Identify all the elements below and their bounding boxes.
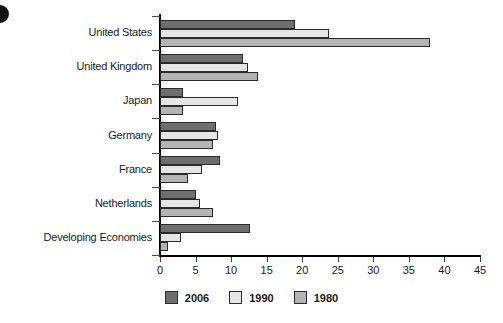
- y-axis-tick: [152, 16, 160, 17]
- x-axis-tick: [373, 257, 374, 262]
- bar[interactable]: [160, 38, 430, 47]
- bar[interactable]: [160, 106, 183, 115]
- bar-row: [160, 72, 480, 81]
- x-axis-tick-label: 25: [323, 264, 353, 276]
- bar-row: [160, 29, 480, 38]
- bar-group: [160, 153, 480, 187]
- bar[interactable]: [160, 29, 329, 38]
- y-axis-label: Netherlands: [6, 197, 152, 209]
- x-axis-tick: [338, 257, 339, 262]
- bar-row: [160, 156, 480, 165]
- bar[interactable]: [160, 242, 168, 251]
- bar[interactable]: [160, 208, 213, 217]
- bar-row: [160, 140, 480, 149]
- bar-group: [160, 50, 480, 84]
- y-axis-label: Developing Economies: [6, 231, 152, 243]
- legend-swatch-icon: [165, 291, 178, 304]
- bar[interactable]: [160, 54, 243, 63]
- y-axis-tick: [152, 221, 160, 222]
- x-axis-tick-label: 0: [145, 264, 175, 276]
- bar[interactable]: [160, 165, 202, 174]
- legend-label: 2006: [185, 292, 209, 304]
- bar-row: [160, 233, 480, 242]
- x-axis-tick: [231, 257, 232, 262]
- bar[interactable]: [160, 122, 216, 131]
- x-axis-tick: [444, 257, 445, 262]
- horizontal-bar-chart: United StatesUnited KingdomJapanGermanyF…: [0, 0, 503, 323]
- x-axis-tick-label: 10: [216, 264, 246, 276]
- legend-label: 1990: [249, 292, 273, 304]
- bar-row: [160, 199, 480, 208]
- legend-item[interactable]: 1980: [294, 291, 338, 304]
- y-axis-tick: [152, 153, 160, 154]
- y-axis-tick: [152, 118, 160, 119]
- bar-row: [160, 165, 480, 174]
- bar-group: [160, 187, 480, 221]
- bar[interactable]: [160, 131, 218, 140]
- x-axis-tick: [480, 257, 481, 262]
- bar-row: [160, 224, 480, 233]
- y-axis-tick: [152, 255, 160, 256]
- bar[interactable]: [160, 190, 196, 199]
- legend-label: 1980: [314, 292, 338, 304]
- bar-row: [160, 54, 480, 63]
- y-axis-category-labels: United StatesUnited KingdomJapanGermanyF…: [0, 16, 152, 255]
- y-axis-tick: [152, 50, 160, 51]
- legend-swatch-icon: [229, 291, 242, 304]
- x-axis-tick: [302, 257, 303, 262]
- x-axis-tick-label: 40: [429, 264, 459, 276]
- x-axis-tick-label: 30: [358, 264, 388, 276]
- bar[interactable]: [160, 224, 250, 233]
- bar-row: [160, 131, 480, 140]
- x-axis-tick: [267, 257, 268, 262]
- x-axis-line: [159, 255, 481, 257]
- legend-item[interactable]: 2006: [165, 291, 209, 304]
- y-axis-tick: [152, 84, 160, 85]
- bar-row: [160, 20, 480, 29]
- legend-swatch-icon: [294, 291, 307, 304]
- bar-row: [160, 174, 480, 183]
- x-axis-tick-label: 45: [465, 264, 495, 276]
- bar[interactable]: [160, 88, 183, 97]
- y-axis-label: United States: [6, 26, 152, 38]
- bar-row: [160, 242, 480, 251]
- bar[interactable]: [160, 156, 220, 165]
- bar-row: [160, 208, 480, 217]
- y-axis-label: Germany: [6, 129, 152, 141]
- y-axis-label: France: [6, 163, 152, 175]
- plot-area: [160, 16, 480, 255]
- bar[interactable]: [160, 97, 238, 106]
- bar[interactable]: [160, 140, 213, 149]
- bar-group: [160, 84, 480, 118]
- bar[interactable]: [160, 233, 181, 242]
- bar-row: [160, 63, 480, 72]
- y-axis-tick: [152, 187, 160, 188]
- bar-group: [160, 16, 480, 50]
- legend-item[interactable]: 1990: [229, 291, 273, 304]
- bar-row: [160, 97, 480, 106]
- bar-row: [160, 122, 480, 131]
- x-axis-tick-label: 5: [181, 264, 211, 276]
- chart-legend: 200619901980: [0, 291, 503, 304]
- x-axis-tick: [196, 257, 197, 262]
- bar-row: [160, 106, 480, 115]
- x-axis-tick-label: 35: [394, 264, 424, 276]
- bar[interactable]: [160, 20, 295, 29]
- x-axis-tick-label: 15: [252, 264, 282, 276]
- y-axis-label: United Kingdom: [6, 60, 152, 72]
- bar[interactable]: [160, 199, 200, 208]
- bar[interactable]: [160, 63, 248, 72]
- bar-row: [160, 190, 480, 199]
- x-axis-tick: [409, 257, 410, 262]
- bar[interactable]: [160, 72, 258, 81]
- x-axis-tick: [160, 257, 161, 262]
- x-axis-tick-label: 20: [287, 264, 317, 276]
- bar-row: [160, 38, 480, 47]
- bar-group: [160, 118, 480, 152]
- y-axis-label: Japan: [6, 94, 152, 106]
- bar[interactable]: [160, 174, 188, 183]
- bar-row: [160, 88, 480, 97]
- bar-group: [160, 221, 480, 255]
